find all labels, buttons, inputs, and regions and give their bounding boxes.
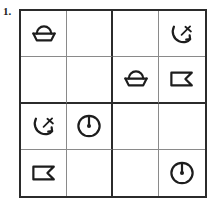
grid-cell-r3c1[interactable] — [21, 104, 67, 150]
grid-cell-r2c1[interactable] — [21, 57, 67, 103]
grid-cell-r1c2[interactable] — [67, 11, 113, 57]
grid-cell-r3c3[interactable] — [113, 104, 159, 150]
grid-cell-r4c4[interactable] — [159, 150, 205, 196]
grid-cell-r4c2[interactable] — [67, 150, 113, 196]
anchor-icon — [165, 17, 199, 51]
grid-cell-r2c3[interactable] — [113, 57, 159, 103]
puzzle-figure: 1. — [0, 0, 215, 207]
flag-icon — [27, 156, 61, 190]
grid-cell-r4c1[interactable] — [21, 150, 67, 196]
flag-icon — [165, 62, 199, 96]
grid-cell-r3c4[interactable] — [159, 104, 205, 150]
anchor-icon — [27, 109, 61, 143]
bowl-icon — [27, 17, 61, 51]
grid-cell-r1c4[interactable] — [159, 11, 205, 57]
grid-cell-r3c2[interactable] — [67, 104, 113, 150]
grid-cell-r4c3[interactable] — [113, 150, 159, 196]
problem-number-label: 1. — [3, 6, 11, 17]
clock-icon — [72, 109, 106, 143]
sudoku-grid — [19, 9, 207, 198]
clock-icon — [165, 156, 199, 190]
grid-cell-r1c3[interactable] — [113, 11, 159, 57]
grid-cell-r2c4[interactable] — [159, 57, 205, 103]
grid-cell-r1c1[interactable] — [21, 11, 67, 57]
bowl-icon — [119, 62, 153, 96]
grid-cell-r2c2[interactable] — [67, 57, 113, 103]
